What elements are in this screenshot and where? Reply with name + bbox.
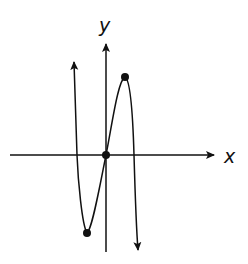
graph: y x [0, 0, 248, 264]
local-minimum-point [83, 229, 91, 237]
curve-right-branch [125, 77, 138, 250]
x-axis-label: x [223, 145, 236, 167]
y-axis-label: y [98, 14, 111, 36]
local-maximum-point [121, 73, 129, 81]
curve-left-branch [74, 62, 87, 233]
origin-point [102, 151, 110, 159]
